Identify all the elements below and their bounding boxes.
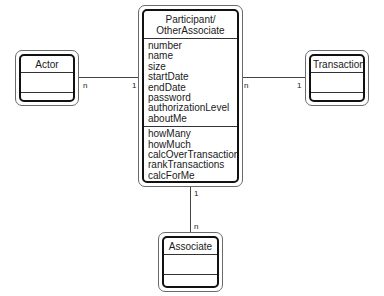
class-name-line2: OtherAssociate — [146, 25, 235, 36]
class-name: Transaction — [311, 56, 363, 72]
multiplicity-actor-side: n — [83, 82, 87, 90]
class-transaction[interactable]: Transaction — [305, 50, 369, 106]
attribute: aboutMe — [148, 114, 233, 124]
multiplicity-associate-side: n — [194, 223, 198, 231]
class-participant-other-associate[interactable]: Participant/ OtherAssociate number name … — [138, 5, 243, 187]
attributes-section — [311, 72, 363, 92]
operations-section — [311, 92, 363, 100]
operations-section — [164, 274, 217, 286]
attributes-section: number name size startDate endDate passw… — [144, 38, 237, 126]
operations-section: howMany howMuch calcOverTransactions ran… — [144, 126, 237, 183]
class-name: Associate — [164, 238, 217, 254]
operation: rateMe — [148, 181, 233, 183]
operations-section — [21, 92, 73, 100]
multiplicity-main-left: 1 — [132, 82, 136, 90]
class-actor[interactable]: Actor — [15, 50, 79, 106]
association-actor-line — [78, 77, 142, 78]
multiplicity-main-bottom: 1 — [194, 190, 198, 198]
multiplicity-transaction-side: 1 — [297, 82, 301, 90]
class-name: Actor — [21, 56, 73, 72]
multiplicity-main-right: n — [244, 82, 248, 90]
class-name: Participant/ OtherAssociate — [144, 11, 237, 38]
attributes-section — [164, 254, 217, 274]
association-associate-line — [190, 186, 191, 232]
class-name-line1: Participant/ — [146, 14, 235, 25]
association-transaction-line — [238, 77, 305, 78]
attributes-section — [21, 72, 73, 92]
class-associate[interactable]: Associate — [158, 232, 223, 292]
